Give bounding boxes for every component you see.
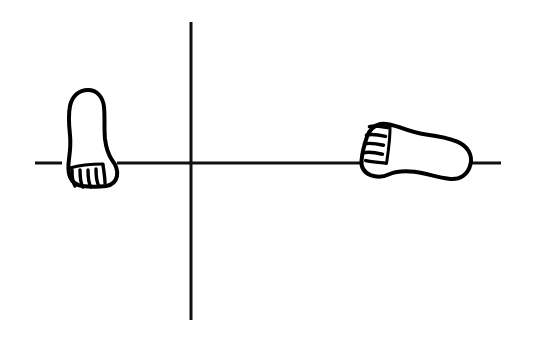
left-foot-figure <box>68 90 117 187</box>
figure-canvas: Foot position diagram Line drawing of tw… <box>0 0 536 350</box>
foot-position-drawing <box>0 0 536 350</box>
left-foot-big-toe-crease <box>103 165 105 183</box>
right-foot-figure <box>358 120 475 197</box>
left-foot-outline <box>68 90 117 187</box>
right-foot-outline <box>358 120 475 197</box>
